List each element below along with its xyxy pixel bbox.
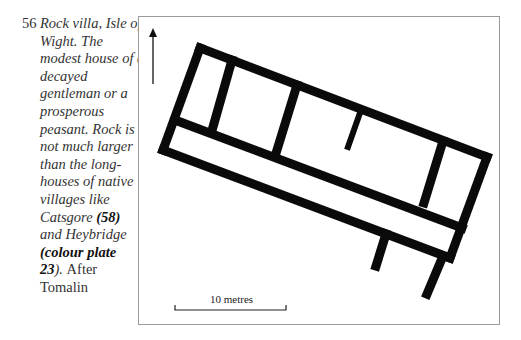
- projection-wall-1: [376, 234, 386, 266]
- stub-wall: [348, 110, 361, 147]
- outer-east-wall: [450, 157, 487, 258]
- cross-wall-2: [277, 85, 297, 150]
- north-arrow-icon: [149, 28, 157, 84]
- site-plan: [0, 0, 521, 340]
- cross-wall-1: [213, 60, 232, 127]
- scale-bar-label: 10 metres: [210, 293, 253, 305]
- outer-west-wall: [163, 48, 200, 150]
- building-walls: [163, 48, 487, 294]
- projection-wall-2: [427, 256, 443, 294]
- cross-wall-3: [424, 141, 443, 203]
- scale-bar: [175, 305, 286, 310]
